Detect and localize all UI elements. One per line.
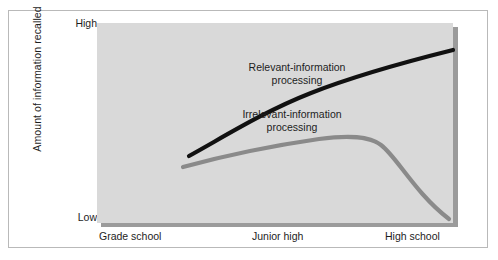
y-axis-low-label: Low [53, 211, 97, 223]
annotation-relevant-line1: Relevant-information [227, 61, 367, 74]
annotation-irrelevant-processing: Irrelevant-information processing [222, 108, 362, 134]
annotation-relevant-processing: Relevant-information processing [227, 61, 367, 87]
x-tick-label-junior-high: Junior high [252, 230, 303, 242]
annotation-irrelevant-line2: processing [222, 121, 362, 134]
x-tick-label-high-school: High school [385, 230, 440, 242]
annotation-relevant-line2: processing [227, 74, 367, 87]
curve-irrelevant-information-processing [183, 137, 449, 219]
y-axis-high-label: High [53, 17, 97, 29]
figure-frame: High Low Amount of information recalled … [8, 10, 488, 248]
plot-shadow-bottom [101, 223, 458, 227]
annotation-irrelevant-line1: Irrelevant-information [222, 108, 362, 121]
plot-shadow-right [453, 27, 458, 227]
y-axis-title: Amount of information recalled [31, 0, 43, 159]
x-tick-label-grade-school: Grade school [99, 230, 161, 242]
